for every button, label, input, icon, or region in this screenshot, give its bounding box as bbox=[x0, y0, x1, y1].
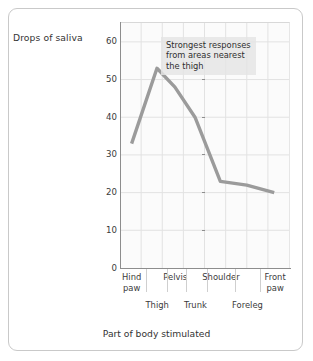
x-tick-label-foreleg: Foreleg bbox=[232, 300, 263, 311]
y-tick-mark bbox=[202, 230, 205, 231]
y-tick-mark bbox=[202, 117, 205, 118]
y-tick-label: 50 bbox=[87, 74, 117, 84]
x-tick-label-thigh: Thigh bbox=[146, 300, 169, 311]
y-tick-label: 10 bbox=[87, 225, 117, 235]
y-tick-label: 30 bbox=[87, 149, 117, 159]
chart-annotation: Strongest responses from areas nearest t… bbox=[161, 37, 256, 75]
x-tick-separator bbox=[146, 269, 147, 292]
y-tick-mark bbox=[202, 192, 205, 193]
y-tick-mark bbox=[202, 79, 205, 80]
y-axis-title: Drops of saliva bbox=[13, 32, 83, 43]
y-tick-label: 60 bbox=[87, 36, 117, 46]
x-tick-label-hind-paw: Hind paw bbox=[122, 272, 141, 293]
x-axis-tick-labels-upper: Hind pawPelvisShoulderFront paw bbox=[0, 272, 313, 298]
x-tick-separator bbox=[235, 269, 236, 292]
x-axis-tick-labels-lower: ThighTrunkForeleg bbox=[0, 300, 313, 326]
x-tick-separator bbox=[186, 269, 187, 292]
x-tick-separator bbox=[260, 269, 261, 292]
x-tick-label-front-paw: Front paw bbox=[265, 272, 286, 293]
x-tick-label-trunk: Trunk bbox=[184, 300, 207, 311]
y-tick-label: 20 bbox=[87, 187, 117, 197]
y-tick-mark bbox=[202, 268, 205, 269]
y-axis-spine bbox=[120, 22, 121, 269]
x-tick-separator bbox=[207, 269, 208, 292]
y-tick-label: 40 bbox=[87, 112, 117, 122]
x-tick-separator bbox=[167, 269, 168, 292]
x-axis-title: Part of body stimulated bbox=[0, 328, 313, 339]
y-tick-mark bbox=[202, 154, 205, 155]
